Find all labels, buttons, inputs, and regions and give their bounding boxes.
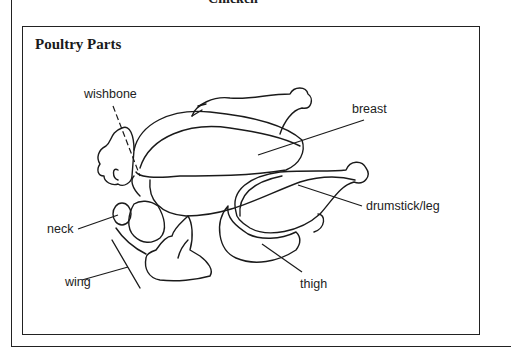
thigh-shape: [220, 206, 300, 262]
drumstick-shape: [235, 162, 368, 233]
label-drumstick: drumstick/leg: [366, 199, 440, 213]
wing-shape-upper: [129, 201, 165, 242]
label-wishbone: wishbone: [83, 87, 137, 101]
wishbone-leader: [113, 106, 140, 176]
label-wing: wing: [64, 275, 91, 289]
neck-leader: [78, 215, 118, 229]
wishbone-shape: [98, 127, 134, 185]
label-neck: neck: [47, 222, 74, 236]
thigh-leader: [262, 244, 302, 272]
breast-shape: [134, 111, 303, 177]
wing-shape-lower: [146, 216, 212, 281]
label-breast: breast: [352, 102, 387, 116]
body-shape: [150, 177, 355, 216]
label-thigh: thigh: [300, 277, 327, 291]
